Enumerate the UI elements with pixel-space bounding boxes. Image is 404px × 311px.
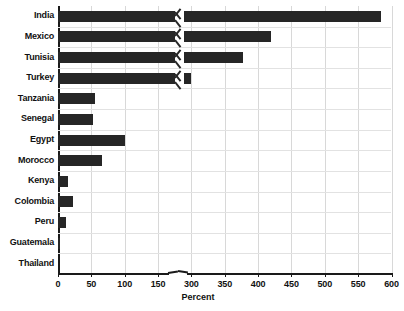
category-label-egypt: Egypt (0, 134, 54, 144)
bar (58, 176, 68, 187)
x-axis-title: Percent (0, 292, 396, 302)
x-axis-line (58, 273, 392, 275)
bar-break-mark (175, 51, 184, 64)
gridline-vertical (158, 6, 159, 274)
category-label-tunisia: Tunisia (0, 52, 54, 62)
bar (58, 11, 381, 22)
bar (58, 73, 191, 84)
category-label-thailand: Thailand (0, 258, 54, 268)
bar-break-mark (175, 10, 184, 23)
category-label-guatemala: Guatemala (0, 237, 54, 247)
bar (58, 196, 73, 207)
gridline-horizontal (58, 253, 391, 254)
gridline-horizontal (58, 27, 391, 28)
category-label-india: India (0, 10, 54, 20)
bar (58, 155, 102, 166)
gridline-horizontal (58, 212, 391, 213)
category-label-peru: Peru (0, 216, 54, 226)
gridline-horizontal (58, 130, 391, 131)
bar-break-mark (175, 72, 184, 85)
bar (58, 238, 60, 249)
bar (58, 114, 93, 125)
gridline-vertical (392, 6, 393, 274)
gridline-horizontal (58, 171, 391, 172)
bar (58, 52, 243, 63)
gridline-vertical (125, 6, 126, 274)
gridline-vertical (291, 6, 292, 274)
gridline-horizontal (58, 47, 391, 48)
gridline-horizontal (58, 192, 391, 193)
bar (58, 31, 271, 42)
bar (58, 217, 66, 228)
gridline-horizontal (58, 109, 391, 110)
gridline-horizontal (58, 150, 391, 151)
category-label-tanzania: Tanzania (0, 93, 54, 103)
x-tick-label: 600 (372, 279, 404, 289)
gridline-vertical (358, 6, 359, 274)
gridline-horizontal (58, 68, 391, 69)
bar (58, 93, 95, 104)
category-label-senegal: Senegal (0, 113, 54, 123)
category-label-morocco: Morocco (0, 155, 54, 165)
category-label-turkey: Turkey (0, 72, 54, 82)
bar-break-mark (175, 30, 184, 43)
bar (58, 135, 125, 146)
category-label-mexico: Mexico (0, 31, 54, 41)
category-label-colombia: Colombia (0, 196, 54, 206)
gridline-vertical (258, 6, 259, 274)
gridline-vertical (225, 6, 226, 274)
gridline-horizontal (58, 233, 391, 234)
gridline-vertical (191, 6, 192, 274)
gridline-vertical (325, 6, 326, 274)
gridline-horizontal (58, 88, 391, 89)
category-label-kenya: Kenya (0, 175, 54, 185)
